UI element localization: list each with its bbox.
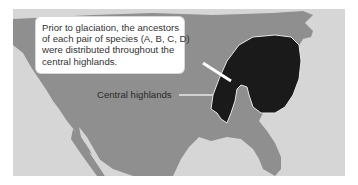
callout-line-2: of each pair of species (A, B, C, D) (42, 33, 180, 44)
callout-line-3: were distributed throughout the (42, 44, 180, 55)
central-highlands-label: Central highlands (97, 89, 172, 100)
callout-line-4: central highlands. (42, 56, 180, 67)
callout-box: Prior to glaciation, the ancestors of ea… (36, 17, 184, 73)
callout-line-1: Prior to glaciation, the ancestors (42, 22, 180, 33)
